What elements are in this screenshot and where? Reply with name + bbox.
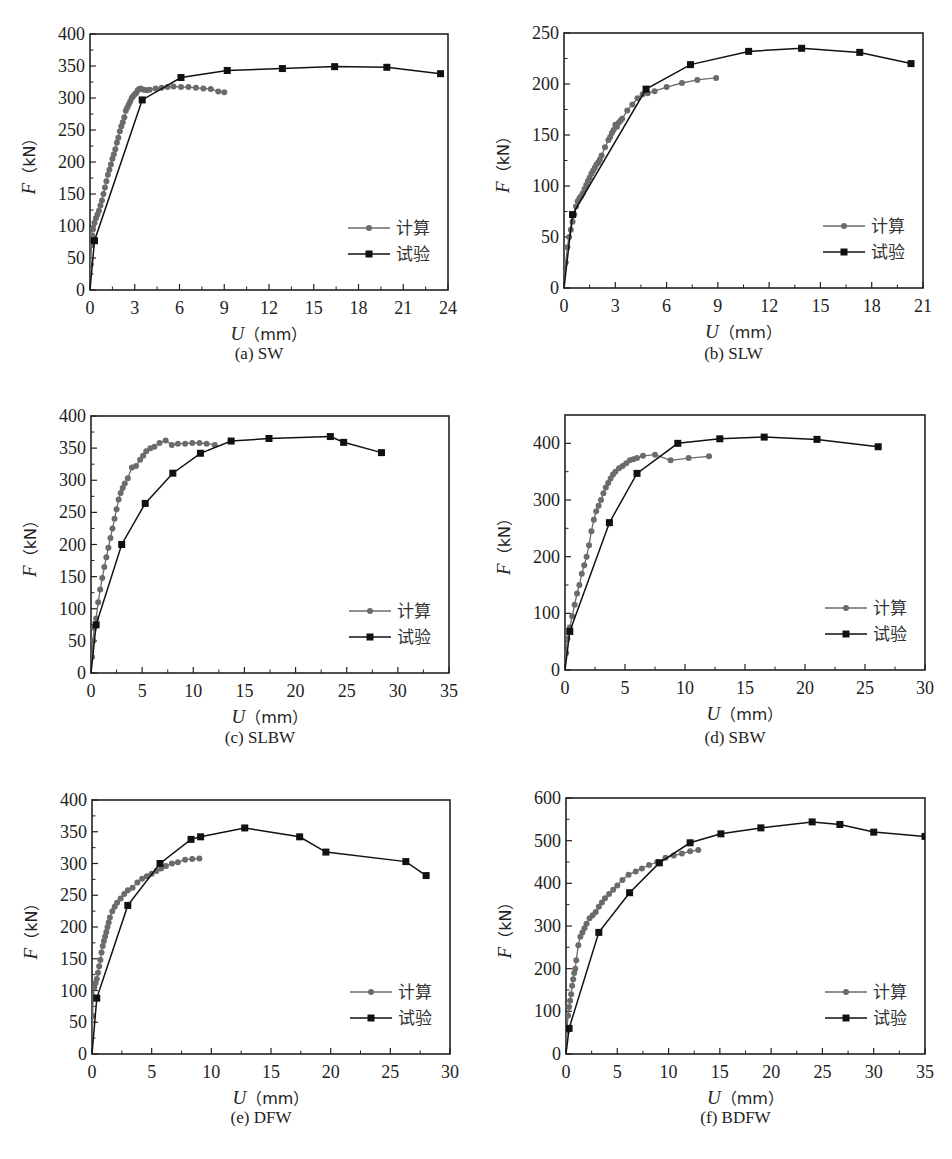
legend: 计算试验 xyxy=(350,982,432,1028)
x-tick-label: 5 xyxy=(613,1062,622,1082)
circle-marker-icon xyxy=(366,225,372,231)
circle-marker-icon xyxy=(843,989,849,995)
y-tick-label: 0 xyxy=(551,660,560,680)
y-tick-label: 600 xyxy=(534,788,561,808)
x-tick-label: 20 xyxy=(762,1062,780,1082)
series-test xyxy=(91,433,385,673)
x-axis: 05101520253035 xyxy=(87,667,459,701)
y-tick-label: 350 xyxy=(60,822,87,842)
caption-c: (c) SLBW xyxy=(225,728,295,748)
y-tick-label: 300 xyxy=(60,854,87,874)
x-axis-title: U（mm） xyxy=(705,321,782,342)
x-tick-label: 0 xyxy=(87,681,96,701)
y-tick-label: 0 xyxy=(552,1044,561,1064)
y-tick-label: 250 xyxy=(59,502,86,522)
x-tick-label: 30 xyxy=(441,1062,459,1082)
x-tick-label: 25 xyxy=(338,681,356,701)
x-axis-title: U（mm） xyxy=(707,1087,784,1108)
x-tick-label: 6 xyxy=(662,296,671,316)
x-tick-label: 10 xyxy=(676,678,694,698)
y-tick-label: 0 xyxy=(78,1044,87,1064)
chart-svg: 03691215182124050100150200250300350400U（… xyxy=(90,34,448,290)
series-calculated xyxy=(563,75,719,288)
y-axis-title: F（kN） xyxy=(19,512,40,578)
legend-label: 试验 xyxy=(396,244,430,264)
y-tick-label: 350 xyxy=(59,438,86,458)
x-tick-label: 6 xyxy=(175,298,184,318)
caption-b: (b) SLW xyxy=(704,344,763,364)
y-tick-label: 400 xyxy=(60,790,87,810)
legend-label: 试验 xyxy=(871,242,905,262)
x-tick-label: 10 xyxy=(184,681,202,701)
plot-frame xyxy=(565,415,925,670)
chart-svg: 05101520253035050100150200250300350400U（… xyxy=(91,416,449,673)
x-tick-label: 20 xyxy=(322,1062,340,1082)
legend-item-calculated: 计算 xyxy=(348,218,430,238)
y-tick-label: 100 xyxy=(60,981,87,1001)
square-marker-icon xyxy=(843,1015,850,1022)
y-tick-label: 400 xyxy=(59,406,86,426)
x-tick-label: 15 xyxy=(235,681,253,701)
x-tick-label: 25 xyxy=(813,1062,831,1082)
y-tick-label: 0 xyxy=(76,280,85,300)
circle-marker-icon xyxy=(367,608,373,614)
chart-panel-c: 05101520253035050100150200250300350400U（… xyxy=(91,416,449,673)
x-tick-label: 30 xyxy=(916,678,934,698)
x-axis-title: U（mm） xyxy=(231,323,308,344)
x-tick-label: 12 xyxy=(260,298,278,318)
x-tick-label: 9 xyxy=(220,298,229,318)
x-tick-label: 35 xyxy=(440,681,458,701)
y-tick-label: 300 xyxy=(533,490,560,510)
chart-svg: 0510152025300100200300400U（mm）F（kN）计算试验 xyxy=(565,415,925,670)
square-marker-icon xyxy=(841,249,848,256)
caption-a: (a) SW xyxy=(235,344,284,364)
chart-panel-a: 03691215182124050100150200250300350400U（… xyxy=(90,34,448,290)
legend-label: 计算 xyxy=(871,216,905,236)
chart-svg: 036912151821050100150200250U（mm）F（kN）计算试… xyxy=(564,33,923,288)
x-tick-label: 0 xyxy=(561,678,570,698)
legend-label: 计算 xyxy=(397,601,431,621)
x-tick-label: 15 xyxy=(262,1062,280,1082)
chart-panel-b: 036912151821050100150200250U（mm）F（kN）计算试… xyxy=(564,33,923,288)
chart-panel-f: 051015202530350100200300400500600U（mm）F（… xyxy=(566,798,925,1054)
x-axis-title: U（mm） xyxy=(707,703,784,724)
x-axis-title: U（mm） xyxy=(233,1087,310,1108)
series-test xyxy=(90,63,444,290)
x-tick-label: 0 xyxy=(562,1062,571,1082)
x-tick-label: 0 xyxy=(86,298,95,318)
circle-marker-icon xyxy=(368,989,374,995)
series-test xyxy=(92,824,430,1054)
x-tick-label: 25 xyxy=(381,1062,399,1082)
legend-label: 计算 xyxy=(873,598,907,618)
x-axis: 05101520253035 xyxy=(562,1048,935,1082)
y-tick-label: 400 xyxy=(534,873,561,893)
y-tick-label: 300 xyxy=(58,88,85,108)
legend: 计算试验 xyxy=(349,601,431,647)
y-axis-title: F（kN） xyxy=(492,128,513,194)
series-calculated xyxy=(563,452,712,670)
legend-item-calculated: 计算 xyxy=(825,982,907,1002)
caption-f: (f) BDFW xyxy=(700,1108,770,1128)
y-tick-label: 0 xyxy=(77,663,86,683)
legend-item-test: 试验 xyxy=(825,1008,907,1028)
chart-svg: 051015202530050100150200250300350400U（mm… xyxy=(92,800,450,1054)
x-tick-label: 10 xyxy=(660,1062,678,1082)
y-axis-title: F（kN） xyxy=(20,895,41,961)
chart-svg: 051015202530350100200300400500600U（mm）F（… xyxy=(566,798,925,1054)
series-calculated xyxy=(90,855,203,1054)
x-tick-label: 10 xyxy=(202,1062,220,1082)
legend-item-test: 试验 xyxy=(348,244,430,264)
legend-label: 计算 xyxy=(873,982,907,1002)
x-tick-label: 30 xyxy=(389,681,407,701)
square-marker-icon xyxy=(367,634,374,641)
x-tick-label: 15 xyxy=(736,678,754,698)
legend-label: 试验 xyxy=(398,1008,432,1028)
square-marker-icon xyxy=(366,251,373,258)
y-axis-title: F（kN） xyxy=(494,894,515,960)
x-axis: 03691215182124 xyxy=(86,284,458,318)
y-tick-label: 50 xyxy=(69,1012,87,1032)
y-axis-title: F（kN） xyxy=(18,130,39,196)
plot-frame xyxy=(564,33,923,288)
y-tick-label: 200 xyxy=(532,74,559,94)
x-tick-label: 9 xyxy=(713,296,722,316)
